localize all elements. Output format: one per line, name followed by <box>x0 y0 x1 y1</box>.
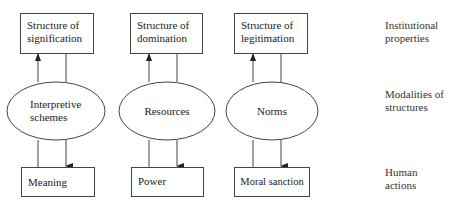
modality-text: Interpretive <box>30 98 96 111</box>
row-label-text: structures <box>385 101 444 114</box>
action-label: Moral sanction <box>237 175 307 188</box>
row-label-text: actions <box>385 179 417 192</box>
structure-box-legitimation: Structure of legitimation <box>234 13 308 54</box>
structure-label: signification <box>27 32 87 45</box>
modality-text: schemes <box>30 111 96 124</box>
row-label-modalities: Modalities of structures <box>385 88 444 114</box>
row-label-human-actions: Human actions <box>385 166 417 192</box>
structure-box-signification: Structure of signification <box>20 13 94 54</box>
row-label-text: Modalities of <box>385 88 444 101</box>
structure-label: legitimation <box>241 32 301 45</box>
row-label-text: Institutional <box>385 19 438 32</box>
modality-label-norms: Norms <box>232 105 312 118</box>
action-box-power: Power <box>131 167 204 197</box>
action-label: Power <box>138 175 197 188</box>
modality-label-interpretive-schemes: Interpretive schemes <box>16 98 96 124</box>
structure-label: domination <box>137 32 196 45</box>
row-label-text: properties <box>385 32 438 45</box>
action-label: Meaning <box>28 176 88 189</box>
action-box-moral-sanction: Moral sanction <box>234 167 310 197</box>
modality-label-resources: Resources <box>127 105 207 118</box>
structure-label: Structure of <box>241 19 301 32</box>
structure-box-domination: Structure of domination <box>130 13 203 54</box>
modality-text: Resources <box>127 105 207 118</box>
structure-label: Structure of <box>27 19 87 32</box>
row-label-institutional-properties: Institutional properties <box>385 19 438 45</box>
structure-label: Structure of <box>137 19 196 32</box>
action-box-meaning: Meaning <box>21 167 95 197</box>
modality-text: Norms <box>232 105 312 118</box>
row-label-text: Human <box>385 166 417 179</box>
